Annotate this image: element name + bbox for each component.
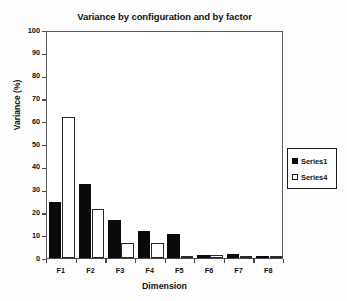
- bar-f8-series4: [270, 256, 283, 258]
- x-tick-label-f3: F3: [105, 266, 135, 275]
- y-tick-label: 10: [32, 231, 40, 240]
- y-tick-label: 60: [32, 117, 40, 126]
- y-tick: 40: [0, 168, 46, 169]
- bar-f3-series4: [121, 243, 134, 258]
- y-tick: 30: [0, 191, 46, 192]
- y-tick: 80: [0, 77, 46, 78]
- y-tick-label: 30: [32, 185, 40, 194]
- x-tick-mark: [283, 259, 284, 263]
- bar-f4-series4: [151, 243, 164, 258]
- bar-f7-series1: [227, 254, 240, 258]
- x-tick-label-f8: F8: [253, 266, 283, 275]
- y-axis-label: Variance (%): [12, 60, 22, 150]
- x-tick-mark: [224, 259, 225, 263]
- y-tick-label: 0: [36, 254, 40, 263]
- x-tick-label-f7: F7: [224, 266, 254, 275]
- y-tick: 20: [0, 213, 46, 214]
- x-tick-label-f6: F6: [194, 266, 224, 275]
- y-tick-label: 90: [32, 48, 40, 57]
- bar-f2-series1: [79, 184, 92, 258]
- y-tick-label: 50: [32, 140, 40, 149]
- y-tick: 100: [0, 31, 46, 32]
- x-tick-label-f4: F4: [135, 266, 165, 275]
- bar-f2-series4: [92, 209, 105, 258]
- y-tick: 60: [0, 122, 46, 123]
- bar-f8-series1: [256, 256, 269, 258]
- legend-label: Series1: [301, 157, 327, 166]
- bar-f6-series1: [197, 255, 210, 258]
- x-tick-mark: [76, 259, 77, 263]
- bar-f1-series4: [62, 117, 75, 258]
- chart-figure: Variance by configuration and by factor …: [0, 0, 347, 301]
- y-tick-label: 40: [32, 162, 40, 171]
- bar-f5-series4: [181, 256, 194, 258]
- bar-f5-series1: [167, 234, 180, 258]
- x-tick-label-f1: F1: [46, 266, 76, 275]
- x-axis-label: Dimension: [46, 281, 283, 291]
- y-tick: 10: [0, 236, 46, 237]
- x-tick-mark: [105, 259, 106, 263]
- legend-label: Series4: [301, 173, 327, 182]
- chart-title: Variance by configuration and by factor: [46, 11, 283, 22]
- legend-swatch-series1: [292, 158, 298, 164]
- x-tick-label-f5: F5: [165, 266, 195, 275]
- y-tick-label: 80: [32, 71, 40, 80]
- x-tick-mark: [165, 259, 166, 263]
- y-tick-label: 20: [32, 208, 40, 217]
- bar-f1-series1: [49, 202, 62, 258]
- y-tick: 90: [0, 54, 46, 55]
- chart-legend: Series1Series4: [287, 148, 337, 189]
- legend-item-series4[interactable]: Series4: [292, 169, 333, 185]
- y-tick-label: 100: [28, 26, 40, 35]
- x-tick-mark: [194, 259, 195, 263]
- x-tick-mark: [135, 259, 136, 263]
- legend-item-series1[interactable]: Series1: [292, 153, 333, 169]
- bar-f4-series1: [138, 231, 151, 258]
- bar-f7-series4: [240, 256, 253, 258]
- y-tick: 50: [0, 145, 46, 146]
- bar-f6-series4: [210, 255, 223, 258]
- x-tick-mark: [253, 259, 254, 263]
- x-tick-mark: [46, 259, 47, 263]
- plot-area: [46, 31, 283, 259]
- y-tick: 70: [0, 99, 46, 100]
- bar-f3-series1: [108, 220, 121, 258]
- legend-swatch-series4: [292, 174, 298, 180]
- x-tick-label-f2: F2: [76, 266, 106, 275]
- y-tick: 0: [0, 259, 46, 260]
- y-tick-label: 70: [32, 94, 40, 103]
